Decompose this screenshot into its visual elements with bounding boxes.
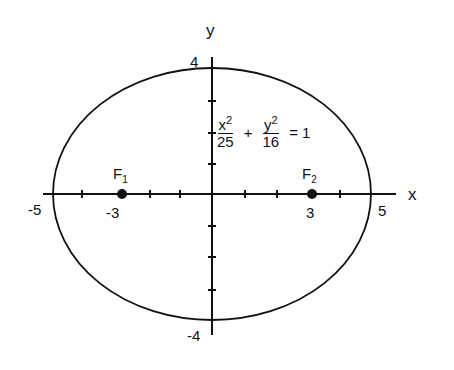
x-tick-label-neg3: -3 xyxy=(106,205,119,220)
y-tick-label-4: 4 xyxy=(190,54,198,69)
x-axis-label: x xyxy=(408,186,417,203)
x-fraction: x2 25 xyxy=(217,115,234,150)
focus-point-f2 xyxy=(307,189,317,199)
x-tick-label-3: 3 xyxy=(306,205,314,220)
focus-label-f1: F1 xyxy=(113,166,128,185)
plus-sign: + xyxy=(244,124,253,141)
equals-one: = 1 xyxy=(289,124,310,141)
x-tick-label-5: 5 xyxy=(378,203,386,218)
y-fraction: y2 16 xyxy=(262,115,279,150)
y-tick-label-neg4: -4 xyxy=(187,328,200,343)
ellipse-equation: x2 25 + y2 16 = 1 xyxy=(215,115,310,150)
ellipse-diagram xyxy=(0,0,454,370)
y-axis-label: y xyxy=(206,22,215,39)
focus-label-f2: F2 xyxy=(302,166,317,185)
focus-point-f1 xyxy=(117,189,127,199)
x-tick-label-neg5: -5 xyxy=(28,202,41,217)
